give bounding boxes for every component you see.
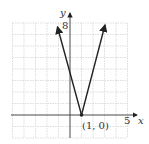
x-tick-label: 5 bbox=[124, 115, 130, 126]
curve-left-branch bbox=[58, 27, 82, 115]
x-axis-label: x bbox=[138, 115, 144, 126]
y-tick-label: 8 bbox=[62, 20, 68, 31]
vertex-label: (1, 0) bbox=[82, 120, 109, 131]
axes bbox=[11, 13, 137, 138]
graph: y 8 5 x (1, 0) bbox=[0, 0, 149, 144]
vertex-point bbox=[80, 113, 84, 117]
y-axis-label: y bbox=[59, 7, 66, 18]
